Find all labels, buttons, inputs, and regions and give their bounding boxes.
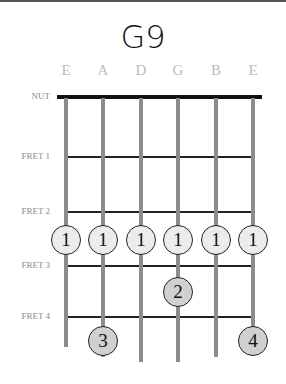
fret-line (66, 265, 253, 267)
nut-label: NUT (0, 91, 50, 101)
fret-label: FRET 3 (0, 260, 50, 270)
finger-dot: 1 (88, 225, 118, 255)
finger-dot: 2 (163, 277, 193, 307)
guitar-string (64, 98, 68, 347)
finger-dot: 3 (88, 326, 118, 356)
string-label: E (243, 62, 263, 79)
finger-dot: 1 (51, 225, 81, 255)
finger-dot: 1 (238, 225, 268, 255)
fret-line (66, 316, 253, 318)
finger-dot: 1 (163, 225, 193, 255)
top-border (0, 0, 286, 2)
string-label: A (93, 62, 113, 79)
string-label: G (168, 62, 188, 79)
string-label: E (56, 62, 76, 79)
finger-dot: 1 (126, 225, 156, 255)
string-label: B (206, 62, 226, 79)
chord-title: G9 (0, 18, 286, 56)
string-label: D (131, 62, 151, 79)
nut (57, 95, 262, 99)
fret-label: FRET 2 (0, 206, 50, 216)
finger-dot: 1 (201, 225, 231, 255)
fret-line (66, 156, 253, 158)
fret-label: FRET 4 (0, 311, 50, 321)
finger-dot: 4 (238, 326, 268, 356)
fret-label: FRET 1 (0, 151, 50, 161)
fret-line (66, 211, 253, 213)
guitar-string (251, 98, 255, 347)
